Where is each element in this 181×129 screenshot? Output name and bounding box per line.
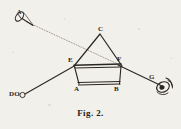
paper-speck bbox=[138, 28, 140, 30]
prism-triangle bbox=[74, 34, 122, 66]
label-point-e: E bbox=[68, 57, 73, 64]
label-source-a: A bbox=[17, 9, 22, 15]
line-ef-upper bbox=[74, 64, 121, 65]
label-point-b: B bbox=[114, 86, 119, 93]
line-ab-upper bbox=[78, 82, 120, 83]
origin-circle bbox=[20, 92, 25, 97]
observer-eye bbox=[155, 78, 172, 95]
figure-2-optics-diagram: C E F A B G DO A Fig. 2. bbox=[0, 0, 181, 129]
label-point-g: G bbox=[149, 74, 155, 81]
label-point-f: F bbox=[117, 56, 121, 63]
label-point-a: A bbox=[74, 86, 79, 93]
paper-speck bbox=[48, 104, 51, 106]
paper-speck bbox=[12, 52, 14, 53]
incident-ray-solid bbox=[25, 65, 76, 94]
incident-ray-dotted bbox=[27, 22, 122, 66]
emergent-ray-solid bbox=[118, 65, 162, 86]
paper-speck bbox=[64, 18, 65, 20]
label-apex-c: C bbox=[98, 26, 103, 33]
line-ef-lower bbox=[75, 67, 121, 68]
paper-speck bbox=[170, 58, 172, 59]
figure-caption: Fig. 2. bbox=[0, 108, 181, 118]
label-origin-do: DO bbox=[9, 91, 20, 98]
